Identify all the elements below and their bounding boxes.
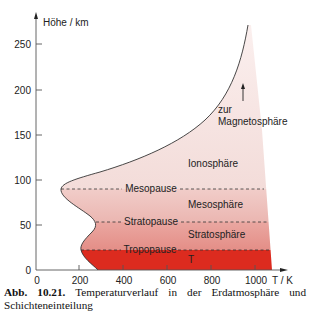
tropopause-label: Tropopause bbox=[124, 244, 177, 255]
mesosphere-label: Mesosphäre bbox=[188, 199, 243, 210]
ionosphere-label: Ionosphäre bbox=[188, 158, 238, 169]
magnetosphere-annotation-line1: zur bbox=[218, 104, 233, 115]
x-axis-arrow-icon bbox=[280, 268, 288, 272]
x-tick-label: 400 bbox=[116, 275, 133, 285]
stratopause-label: Stratopause bbox=[124, 216, 178, 227]
caption-number: Abb. 10.21. bbox=[4, 286, 65, 298]
x-tick-label: 0 bbox=[34, 275, 40, 285]
y-axis-arrow-icon bbox=[34, 12, 38, 19]
x-tick-label: 800 bbox=[204, 275, 221, 285]
figure-caption: Abb. 10.21. Temperaturverlauf in der Erd… bbox=[4, 286, 306, 312]
y-ticks bbox=[36, 44, 42, 225]
x-tick-label: 200 bbox=[72, 275, 89, 285]
y-tick-label: 250 bbox=[14, 39, 31, 50]
x-axis-label: T / K bbox=[272, 275, 293, 285]
atmosphere-diagram: 0 50 100 150 200 250 0 200 400 600 800 1… bbox=[0, 0, 309, 285]
y-tick-label: 200 bbox=[14, 85, 31, 96]
mesopause-label: Mesopause bbox=[125, 183, 177, 194]
y-tick-label: 0 bbox=[25, 265, 31, 276]
magnetosphere-annotation-line2: Magnetosphäre bbox=[218, 116, 288, 127]
y-tick-label: 50 bbox=[20, 220, 32, 231]
y-axis-label: Höhe / km bbox=[43, 17, 89, 28]
x-tick-label: 1000 bbox=[245, 275, 268, 285]
stratosphere-label: Stratosphäre bbox=[188, 229, 246, 240]
y-tick-label: 100 bbox=[14, 175, 31, 186]
x-tick-label: 600 bbox=[160, 275, 177, 285]
y-tick-label: 150 bbox=[14, 130, 31, 141]
troposphere-label: T bbox=[188, 254, 194, 265]
